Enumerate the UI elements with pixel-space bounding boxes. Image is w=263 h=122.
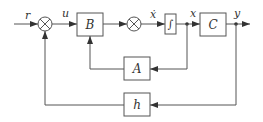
signal-x-label: x [190,7,197,20]
block-integrator-label: ∫ [168,18,174,31]
h-to-junction-line [45,31,124,105]
signal-xdot-label: ẋ [150,8,157,21]
block-diagram: r u B ẋ ∫ x C y A h [0,0,263,122]
signal-y-label: y [233,7,241,20]
signal-u-label: u [62,7,69,20]
signal-r-label: r [25,9,31,22]
block-a-label: A [132,62,142,76]
summing-junction-2 [127,17,141,31]
block-b-label: B [85,18,95,32]
block-c-label: C [208,18,217,32]
block-h-label: h [133,98,141,112]
a-to-b-line [90,36,124,69]
summing-junction-1 [38,17,52,31]
